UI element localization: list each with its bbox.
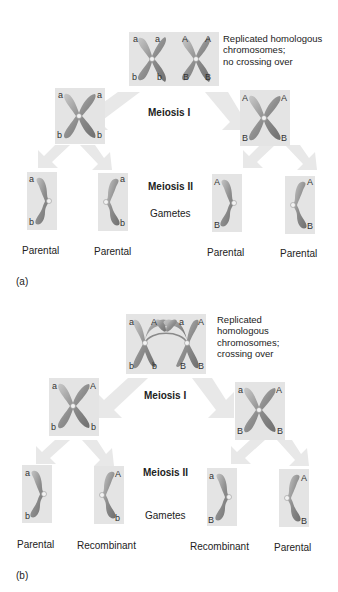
meiosis-1-label: Meiosis I (144, 390, 186, 402)
gamete-caption: Parental (22, 245, 59, 257)
allele-label: a (120, 175, 125, 184)
panel-tag: (b) (16, 570, 28, 582)
allele-label: a (238, 386, 243, 395)
crossing-over-chromosomes-icon (126, 314, 206, 374)
allele-label: a (52, 382, 57, 391)
allele-label: a (25, 469, 30, 478)
meiosis-1-label: Meiosis I (148, 107, 190, 119)
allele-label: B (180, 362, 186, 371)
meiosis-2-label: Meiosis II (148, 181, 193, 193)
allele-label: B (183, 73, 189, 82)
allele-label: B (205, 73, 211, 82)
allele-label: a (133, 35, 138, 44)
allele-label: A (281, 94, 287, 103)
arrow-down-right-icon (277, 440, 309, 466)
gamete-caption: Recombinant (190, 541, 249, 553)
gametes-label: Gametes (145, 510, 186, 522)
allele-label: b (152, 362, 157, 371)
allele-label: A (90, 382, 96, 391)
arrow-down-left-icon (38, 145, 70, 168)
allele-label: A (276, 386, 282, 395)
allele-label: b (129, 362, 134, 371)
allele-label: A (214, 178, 220, 187)
allele-label: A (115, 470, 121, 479)
allele-label: A (307, 178, 313, 187)
allele-label: A (151, 318, 157, 327)
allele-label: B (198, 362, 204, 371)
arrow-down-left-icon (243, 145, 275, 168)
description: Replicated homologous chromosomes; cross… (217, 314, 279, 360)
gamete-caption: Parental (94, 246, 131, 258)
gamete-caption: Parental (17, 539, 54, 551)
gamete-caption: Recombinant (77, 540, 136, 552)
arrow-down-left-icon (36, 440, 70, 464)
allele-label: a (29, 175, 34, 184)
allele-label: B (242, 134, 248, 143)
allele-label: A (301, 474, 307, 483)
panel-tag: (a) (16, 276, 28, 288)
arrow-down-left-icon (96, 378, 148, 418)
description: Replicated homologous chromosomes; no cr… (223, 33, 322, 67)
allele-label: b (132, 73, 137, 82)
allele-label: b (57, 131, 62, 140)
allele-label: B (307, 222, 313, 231)
allele-label: A (198, 318, 204, 327)
allele-label: a (179, 318, 184, 327)
allele-label: a (97, 91, 102, 100)
allele-label: b (25, 512, 30, 521)
arrow-down-right-icon (192, 378, 234, 418)
gamete-caption: Parental (274, 542, 311, 554)
allele-label: b (51, 423, 56, 432)
gamete-caption: Parental (207, 247, 244, 259)
meiosis-2-label: Meiosis II (143, 467, 188, 479)
allele-label: B (237, 427, 243, 436)
allele-label: a (209, 472, 214, 481)
gametes-label: Gametes (150, 208, 191, 220)
arrow-down-right-icon (285, 145, 317, 170)
allele-label: A (205, 35, 211, 44)
allele-label: b (29, 218, 34, 227)
allele-label: b (91, 423, 96, 432)
allele-label: b (115, 514, 120, 523)
allele-label: b (120, 219, 125, 228)
allele-label: B (281, 134, 287, 143)
gamete-caption: Parental (280, 248, 317, 260)
allele-label: A (242, 94, 248, 103)
allele-label: b (157, 73, 162, 82)
allele-label: a (129, 318, 134, 327)
allele-label: A (182, 35, 188, 44)
allele-label: b (97, 131, 102, 140)
arrow-down-right-icon (82, 440, 114, 466)
allele-label: B (214, 221, 220, 230)
arrow-down-right-icon (80, 145, 112, 170)
arrow-down-left-icon (231, 440, 265, 464)
allele-label: a (58, 91, 63, 100)
allele-label: a (155, 35, 160, 44)
allele-label: B (301, 517, 307, 526)
allele-label: B (277, 427, 283, 436)
allele-label: B (208, 516, 214, 525)
